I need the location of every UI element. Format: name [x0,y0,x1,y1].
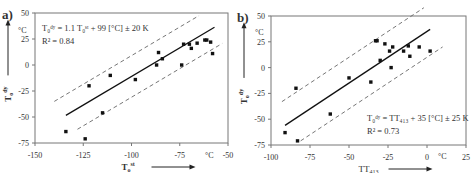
x-unit-label: °C [205,151,214,160]
data-point [180,63,183,66]
r-squared: R² = 0.84 [42,36,75,46]
data-point [157,51,160,54]
data-point [383,42,386,45]
data-point [109,74,112,77]
data-point [294,87,297,90]
x-tick-label: -50 [344,153,355,162]
y-axis-label-sup: dy [2,86,8,92]
data-point [391,45,394,48]
x-tick-label: -125 [76,151,91,160]
y-axis-label: Tody [238,89,250,104]
x-tick-label: -75 [174,151,185,160]
figure: -75-50-2502550-150-125-100-75-50°C°Ca)T₀… [0,0,474,173]
x-tick-label: -150 [28,151,43,160]
data-point [283,131,286,134]
y-tick-label: 50 [21,9,29,18]
y-tick-label: 25 [257,38,265,47]
y-axis-label: Tody [2,86,14,101]
data-point [87,84,90,87]
y-axis-label-sub: o [8,93,14,96]
x-axis-label: TT413 [359,164,379,173]
y-unit-label: °C [255,28,264,37]
y-tick-label: -25 [254,89,265,98]
data-point [428,49,431,52]
y-tick-label: -75 [18,139,29,148]
data-point [101,111,104,114]
data-point [379,59,382,62]
data-point [407,44,410,47]
x-axis-label-sub: 413 [370,169,379,173]
x-unit-label: °C [438,152,447,161]
y-tick-label: -50 [18,113,29,122]
x-tick-label: -50 [223,151,234,160]
data-point [188,43,191,46]
data-point [369,80,372,83]
arrow-head-icon [427,167,433,172]
x-tick-label: -100 [124,151,139,160]
panel-label: b) [237,10,249,25]
data-point [329,112,332,115]
panel-label: a) [2,7,13,22]
x-tick-label: -25 [383,153,394,162]
data-point [296,139,299,142]
x-axis-label-sub: o [128,167,131,173]
data-point [190,47,193,50]
data-point [389,66,392,69]
data-point [402,49,405,52]
y-tick-label: 0 [25,61,29,70]
y-tick-label: 50 [257,12,265,21]
data-point [83,137,86,140]
chart-panel-b: -75-50-2502550-100-75-50-25025°C°Cb)T₀ᵈʸ… [237,8,470,173]
x-axis-label-sup: st [131,161,135,167]
y-tick-label: 25 [21,35,29,44]
x-tick-label: 25 [462,153,470,162]
regression-line [66,27,215,115]
y-axis-label-sup: dy [238,89,244,95]
data-point [134,78,137,81]
data-point [388,49,391,52]
y-tick-label: 0 [261,64,265,73]
confidence-band-line [77,43,222,129]
y-unit-label: °C [18,26,27,35]
y-tick-label: -50 [254,115,265,124]
data-point [211,52,214,55]
x-axis-label: Tost [122,161,135,173]
x-tick-label: -75 [305,153,316,162]
data-point [182,43,185,46]
data-point [195,41,198,44]
x-tick-label: 0 [425,153,429,162]
x-axis-label-main: TT [359,164,370,173]
data-point [375,39,378,42]
confidence-band-line [282,8,424,102]
chart-panel-a: -75-50-2502550-150-125-100-75-50°C°Ca)T₀… [2,7,233,173]
regression-equation: T₀ᵈʸ = TT₄₁₃ + 35 [°C] ± 25 K [367,113,469,123]
data-point [161,57,164,60]
arrow-head-icon [190,165,196,170]
data-point [205,38,208,41]
regression-equation: T₀ᵈʸ = 1.1 T₀ˢᵗ + 99 [°C] ± 20 K [42,23,149,33]
regression-line [285,29,430,125]
data-point [418,45,421,48]
data-point [209,40,212,43]
y-tick-label: -25 [18,87,29,96]
data-point [155,63,158,66]
x-tick-label: -100 [264,153,279,162]
r-squared: R² = 0.73 [367,126,399,136]
y-tick-label: -75 [254,141,265,150]
data-point [64,130,67,133]
data-point [408,55,411,58]
y-axis-label-sub: o [244,95,250,98]
data-point [347,76,350,79]
